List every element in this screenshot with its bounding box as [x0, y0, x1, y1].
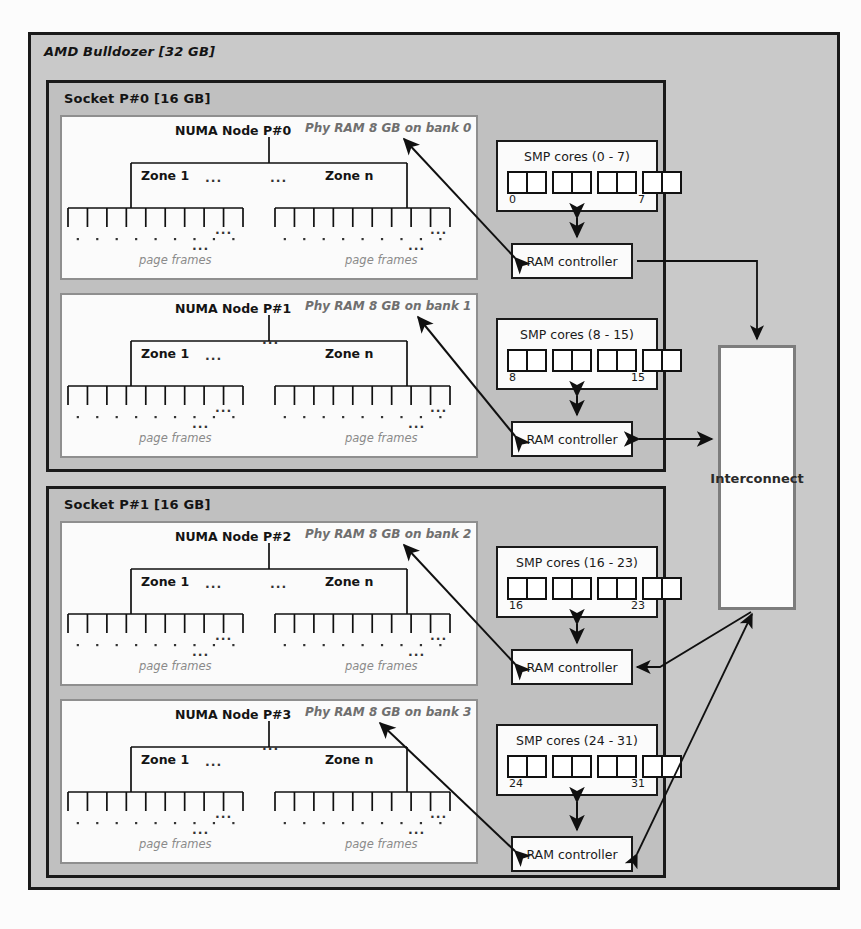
smp-cores-1-first-index: 8: [509, 371, 516, 384]
core-square: [661, 349, 682, 372]
frame-ellipsis-d-1: ...: [408, 416, 425, 431]
frame-ellipsis-a-1: ...: [215, 400, 232, 415]
page-frames-left-3: page frames: [139, 837, 211, 851]
zone-first-label-2: Zone 1: [141, 574, 189, 589]
page-frames-left-0: page frames: [139, 253, 211, 267]
core-group: [642, 349, 680, 372]
core-square: [552, 349, 573, 372]
ram-controller-3: RAM controller: [511, 836, 633, 872]
frame-ellipsis-d-3: ...: [408, 822, 425, 837]
smp-cores-0: SMP cores (0 - 7) 0 7: [496, 140, 658, 212]
core-square: [661, 171, 682, 194]
core-square: [597, 349, 618, 372]
core-group: [552, 755, 590, 778]
frame-ellipsis-a-3: ...: [215, 806, 232, 821]
page-frames-left-2: page frames: [139, 659, 211, 673]
core-group: [597, 577, 635, 600]
core-square: [552, 171, 573, 194]
phy-ram-label-2: Phy RAM 8 GB on bank 2: [305, 527, 471, 541]
core-square: [507, 755, 528, 778]
smp-cores-3-group-row: [507, 755, 687, 778]
smp-cores-1-last-index: 15: [631, 371, 645, 384]
core-square: [526, 349, 547, 372]
core-square: [616, 577, 637, 600]
core-group: [507, 755, 545, 778]
core-square: [526, 755, 547, 778]
zone-first-label-3: Zone 1: [141, 752, 189, 767]
page-frames-right-1: page frames: [345, 431, 417, 445]
smp-cores-0-title: SMP cores (0 - 7): [498, 149, 656, 164]
core-square: [507, 171, 528, 194]
ram-controller-1: RAM controller: [511, 421, 633, 457]
interconnect-box: Interconnect: [718, 345, 796, 610]
core-group: [597, 171, 635, 194]
core-group: [507, 171, 545, 194]
ram-controller-1-label: RAM controller: [526, 432, 617, 447]
core-square: [552, 755, 573, 778]
zone-last-label-3: Zone n: [325, 752, 373, 767]
core-square: [616, 349, 637, 372]
core-square: [597, 755, 618, 778]
zone-ellipsis-top-3: ...: [262, 738, 279, 753]
numa-node-2-title: NUMA Node P#2: [175, 529, 291, 544]
zone-ellipsis-top-1: ...: [262, 332, 279, 347]
core-square: [571, 171, 592, 194]
core-group: [642, 755, 680, 778]
core-square: [507, 349, 528, 372]
core-square: [571, 349, 592, 372]
core-square: [616, 171, 637, 194]
zone-last-label-2: Zone n: [325, 574, 373, 589]
zone-ellipsis-left-0: ...: [205, 170, 222, 185]
smp-cores-0-last-index: 7: [638, 193, 645, 206]
ram-controller-3-label: RAM controller: [526, 847, 617, 862]
core-group: [642, 171, 680, 194]
core-square: [571, 755, 592, 778]
core-square: [642, 349, 663, 372]
smp-cores-3-last-index: 31: [631, 777, 645, 790]
smp-cores-3: SMP cores (24 - 31) 24 31: [496, 724, 658, 796]
frame-ellipsis-b-1: ...: [430, 400, 447, 415]
core-group: [642, 577, 680, 600]
ram-controller-0-label: RAM controller: [526, 254, 617, 269]
core-group: [552, 171, 590, 194]
frame-ellipsis-b-0: ...: [430, 222, 447, 237]
frame-ellipsis-c-2: ...: [192, 644, 209, 659]
frame-ellipsis-c-1: ...: [192, 416, 209, 431]
core-square: [642, 755, 663, 778]
ram-controller-2: RAM controller: [511, 649, 633, 685]
core-group: [507, 577, 545, 600]
page-frames-right-2: page frames: [345, 659, 417, 673]
ram-controller-2-label: RAM controller: [526, 660, 617, 675]
page-frames-right-0: page frames: [345, 253, 417, 267]
core-group: [552, 577, 590, 600]
page-frames-left-1: page frames: [139, 431, 211, 445]
core-square: [526, 577, 547, 600]
frame-ellipsis-d-0: ...: [408, 238, 425, 253]
frame-ellipsis-b-3: ...: [430, 806, 447, 821]
ram-controller-0: RAM controller: [511, 243, 633, 279]
core-group: [552, 349, 590, 372]
zone-first-label-0: Zone 1: [141, 168, 189, 183]
core-square: [571, 577, 592, 600]
frame-ellipsis-c-3: ...: [192, 822, 209, 837]
core-square: [642, 577, 663, 600]
socket-0-title: Socket P#0 [16 GB]: [64, 91, 211, 106]
smp-cores-2-group-row: [507, 577, 687, 600]
phy-ram-label-3: Phy RAM 8 GB on bank 3: [305, 705, 471, 719]
smp-cores-3-first-index: 24: [509, 777, 523, 790]
core-square: [526, 171, 547, 194]
numa-node-3-title: NUMA Node P#3: [175, 707, 291, 722]
machine-title: AMD Bulldozer [32 GB]: [44, 44, 215, 59]
core-square: [552, 577, 573, 600]
core-square: [661, 577, 682, 600]
frame-ellipsis-d-2: ...: [408, 644, 425, 659]
interconnect-label: Interconnect: [710, 470, 803, 485]
zone-ellipsis-left-3: ...: [205, 754, 222, 769]
phy-ram-label-1: Phy RAM 8 GB on bank 1: [305, 299, 471, 313]
frame-ellipsis-a-2: ...: [215, 628, 232, 643]
smp-cores-3-title: SMP cores (24 - 31): [498, 733, 656, 748]
core-group: [507, 349, 545, 372]
zone-ellipsis-right-2: ...: [270, 576, 287, 591]
core-square: [507, 577, 528, 600]
smp-cores-2-title: SMP cores (16 - 23): [498, 555, 656, 570]
